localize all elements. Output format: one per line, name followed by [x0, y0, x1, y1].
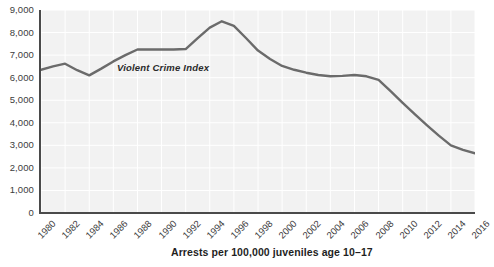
x-axis-line [39, 212, 475, 214]
y-tick-label: 2,000 [0, 162, 34, 173]
y-tick-label: 4,000 [0, 117, 34, 128]
y-axis-line [39, 10, 41, 213]
series-inline-label: Violent Crime Index [117, 62, 209, 73]
y-tick-label: 7,000 [0, 49, 34, 60]
y-tick-label: 3,000 [0, 139, 34, 150]
y-tick-label: 6,000 [0, 72, 34, 83]
y-tick-label: 0 [0, 207, 34, 218]
x-axis-title: Arrests per 100,000 juveniles age 10–17 [171, 246, 373, 258]
y-tick-label: 8,000 [0, 27, 34, 38]
series-line-violent-crime-index [41, 10, 475, 213]
y-tick-label: 5,000 [0, 94, 34, 105]
y-tick-label: 9,000 [0, 4, 34, 15]
y-tick-label: 1,000 [0, 184, 34, 195]
violent-crime-index-chart: 01,0002,0003,0004,0005,0006,0007,0008,00… [0, 0, 494, 267]
